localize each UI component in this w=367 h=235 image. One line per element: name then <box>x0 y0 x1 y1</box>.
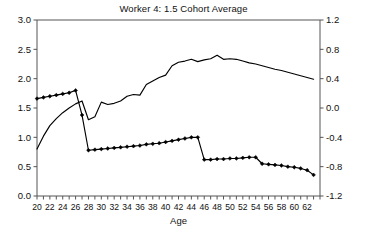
series-marker <box>144 142 148 146</box>
y-axis-tick-label: 1.0 <box>18 132 31 143</box>
y2-axis-tick-label: 0.8 <box>326 44 339 55</box>
y2-axis-tick-label: -0.8 <box>326 161 342 172</box>
x-axis-tick-label: 28 <box>84 202 94 212</box>
y-axis-left: 0.00.51.01.52.02.53.0 <box>18 14 37 201</box>
series-marker <box>119 145 123 149</box>
series-marker <box>157 141 161 145</box>
x-axis-tick-label: 58 <box>277 202 287 212</box>
x-axis-tick-label: 52 <box>238 202 248 212</box>
series-marker <box>228 157 232 161</box>
series-marker <box>170 139 174 143</box>
series-marker <box>241 156 245 160</box>
x-axis-tick-label: 24 <box>58 202 68 212</box>
series-marker <box>177 138 181 142</box>
series-marker <box>151 142 155 146</box>
x-axis-tick-label: 54 <box>251 202 261 212</box>
x-axis-tick-label: 20 <box>32 202 42 212</box>
y2-axis-tick-label: -0.4 <box>326 132 342 143</box>
series-marker <box>299 167 303 171</box>
series-marker <box>48 94 52 98</box>
x-axis-tick-label: 22 <box>45 202 55 212</box>
series-marker <box>292 165 296 169</box>
series-marker <box>112 146 116 150</box>
y-axis-right: -1.2-0.8-0.40.00.40.81.2 <box>320 14 342 201</box>
y-axis-tick-label: 3.0 <box>18 14 31 25</box>
plot-frame <box>37 20 320 196</box>
series-marker <box>80 113 84 117</box>
series-marker <box>132 144 136 148</box>
series-marker <box>125 145 129 149</box>
data-series-group <box>35 55 315 177</box>
y2-axis-tick-label: -1.2 <box>326 190 342 201</box>
series-marker <box>267 162 271 166</box>
y-axis-tick-label: 2.5 <box>18 44 31 55</box>
series-marker <box>247 155 251 159</box>
x-axis-title: Age <box>170 215 187 226</box>
x-axis-tick-label: 30 <box>97 202 107 212</box>
x-axis-tick-label: 50 <box>225 202 235 212</box>
series-marker <box>42 96 46 100</box>
series-marker <box>209 158 213 162</box>
y-axis-tick-label: 0.0 <box>18 190 31 201</box>
y2-axis-tick-label: 1.2 <box>326 14 339 25</box>
chart-plot: 0.00.51.01.52.02.53.0 -1.2-0.8-0.40.00.4… <box>0 0 367 235</box>
x-axis-tick-label: 62 <box>302 202 312 212</box>
y2-axis-tick-label: 0.0 <box>326 102 339 113</box>
y-axis-tick-label: 1.5 <box>18 102 31 113</box>
series-marker <box>222 157 226 161</box>
series-marker <box>280 164 284 168</box>
x-axis-tick-label: 44 <box>187 202 197 212</box>
series-marker <box>215 157 219 161</box>
series-marker <box>106 147 110 151</box>
series-marker <box>138 144 142 148</box>
y-axis-tick-label: 0.5 <box>18 161 31 172</box>
series-marker <box>87 148 91 152</box>
series-marker <box>74 89 78 93</box>
series-marker <box>286 165 290 169</box>
series-marker <box>164 140 168 144</box>
x-axis-tick-label: 32 <box>109 202 119 212</box>
x-axis-tick-label: 36 <box>135 202 145 212</box>
y2-axis-tick-label: 0.4 <box>326 73 339 84</box>
series-marker <box>99 147 103 151</box>
x-axis-tick-label: 56 <box>264 202 274 212</box>
x-axis-tick-label: 34 <box>122 202 132 212</box>
x-axis-tick-label: 26 <box>71 202 81 212</box>
series-marker <box>35 97 39 101</box>
series-marker <box>54 93 58 97</box>
series-marker <box>234 157 238 161</box>
series-marker <box>183 137 187 141</box>
series-marker <box>93 148 97 152</box>
series-line-unmarked-series <box>37 55 314 149</box>
series-marker <box>202 158 206 162</box>
x-axis-tick-label: 38 <box>148 202 158 212</box>
x-axis: 2022242628303234363840424446485052545658… <box>32 196 320 212</box>
x-axis-tick-label: 60 <box>289 202 299 212</box>
x-axis-tick-label: 40 <box>161 202 171 212</box>
x-axis-tick-label: 42 <box>174 202 184 212</box>
x-axis-tick-label: 46 <box>199 202 209 212</box>
series-marker <box>67 91 71 95</box>
series-marker <box>61 92 65 96</box>
series-marker <box>196 135 200 139</box>
y-axis-tick-label: 2.0 <box>18 73 31 84</box>
series-marker <box>189 135 193 139</box>
x-axis-tick-label: 48 <box>212 202 222 212</box>
series-marker <box>273 163 277 167</box>
chart-container: Worker 4: 1.5 Cohort Average 0.00.51.01.… <box>0 0 367 235</box>
